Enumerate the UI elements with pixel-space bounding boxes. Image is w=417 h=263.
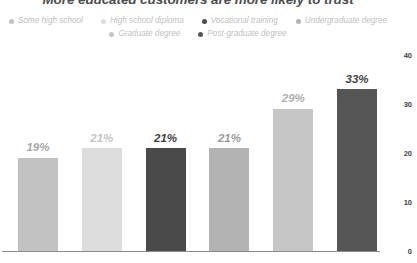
bar[interactable] [18, 158, 58, 251]
legend-row: Some high schoolHigh school diplomaVocat… [0, 15, 396, 28]
bar[interactable] [82, 148, 122, 251]
bar-group[interactable]: 33% [337, 55, 377, 251]
legend-item-label: Some high school [18, 17, 83, 25]
plot-area: 19%21%21%21%29%33% 403020100 [0, 55, 417, 263]
legend-item[interactable]: High school diploma [101, 17, 184, 25]
x-axis-line [2, 251, 380, 252]
chart-legend: Some high schoolHigh school diplomaVocat… [0, 15, 396, 41]
legend-row: Graduate degreePost-graduate degree [0, 28, 396, 41]
y-axis-tick-label: 40 [404, 51, 412, 60]
legend-item-label: Graduate degree [118, 30, 180, 38]
bar-group[interactable]: 19% [18, 55, 58, 251]
legend-item[interactable]: Vocational training [202, 17, 278, 25]
legend-item-label: Post-graduate degree [207, 30, 286, 38]
bar[interactable] [337, 89, 377, 251]
legend-item[interactable]: Undergraduate degree [296, 17, 387, 25]
bar-value-label: 21% [218, 133, 241, 145]
legend-item[interactable]: Graduate degree [109, 30, 180, 38]
bar-value-label: 21% [154, 133, 177, 145]
bar-group[interactable]: 21% [209, 55, 249, 251]
bar-value-label: 19% [26, 142, 49, 154]
legend-swatch-icon [109, 32, 114, 37]
legend-swatch-icon [202, 19, 207, 24]
bar-group[interactable]: 29% [273, 55, 313, 251]
legend-swatch-icon [296, 19, 301, 24]
bar[interactable] [273, 109, 313, 251]
legend-item[interactable]: Post-graduate degree [198, 30, 286, 38]
bar-value-label: 21% [90, 133, 113, 145]
y-axis-tick-label: 10 [404, 198, 412, 207]
bar[interactable] [146, 148, 186, 251]
chart-title: More educated customers are more likely … [0, 0, 396, 7]
bar-value-label: 33% [346, 74, 369, 86]
y-axis-tick-label: 20 [404, 149, 412, 158]
y-axis: 403020100 [383, 55, 417, 251]
bar-chart: More educated customers are more likely … [0, 0, 417, 263]
legend-swatch-icon [101, 19, 106, 24]
bar-value-label: 29% [282, 93, 305, 105]
y-axis-tick-label: 30 [404, 100, 412, 109]
legend-item-label: Vocational training [211, 17, 278, 25]
bars-container: 19%21%21%21%29%33% [0, 55, 383, 251]
legend-item-label: Undergraduate degree [305, 17, 387, 25]
bar[interactable] [209, 148, 249, 251]
y-axis-tick-label: 0 [408, 247, 412, 256]
legend-item[interactable]: Some high school [9, 17, 83, 25]
legend-swatch-icon [198, 32, 203, 37]
legend-item-label: High school diploma [110, 17, 184, 25]
bar-group[interactable]: 21% [82, 55, 122, 251]
bar-group[interactable]: 21% [146, 55, 186, 251]
legend-swatch-icon [9, 19, 14, 24]
